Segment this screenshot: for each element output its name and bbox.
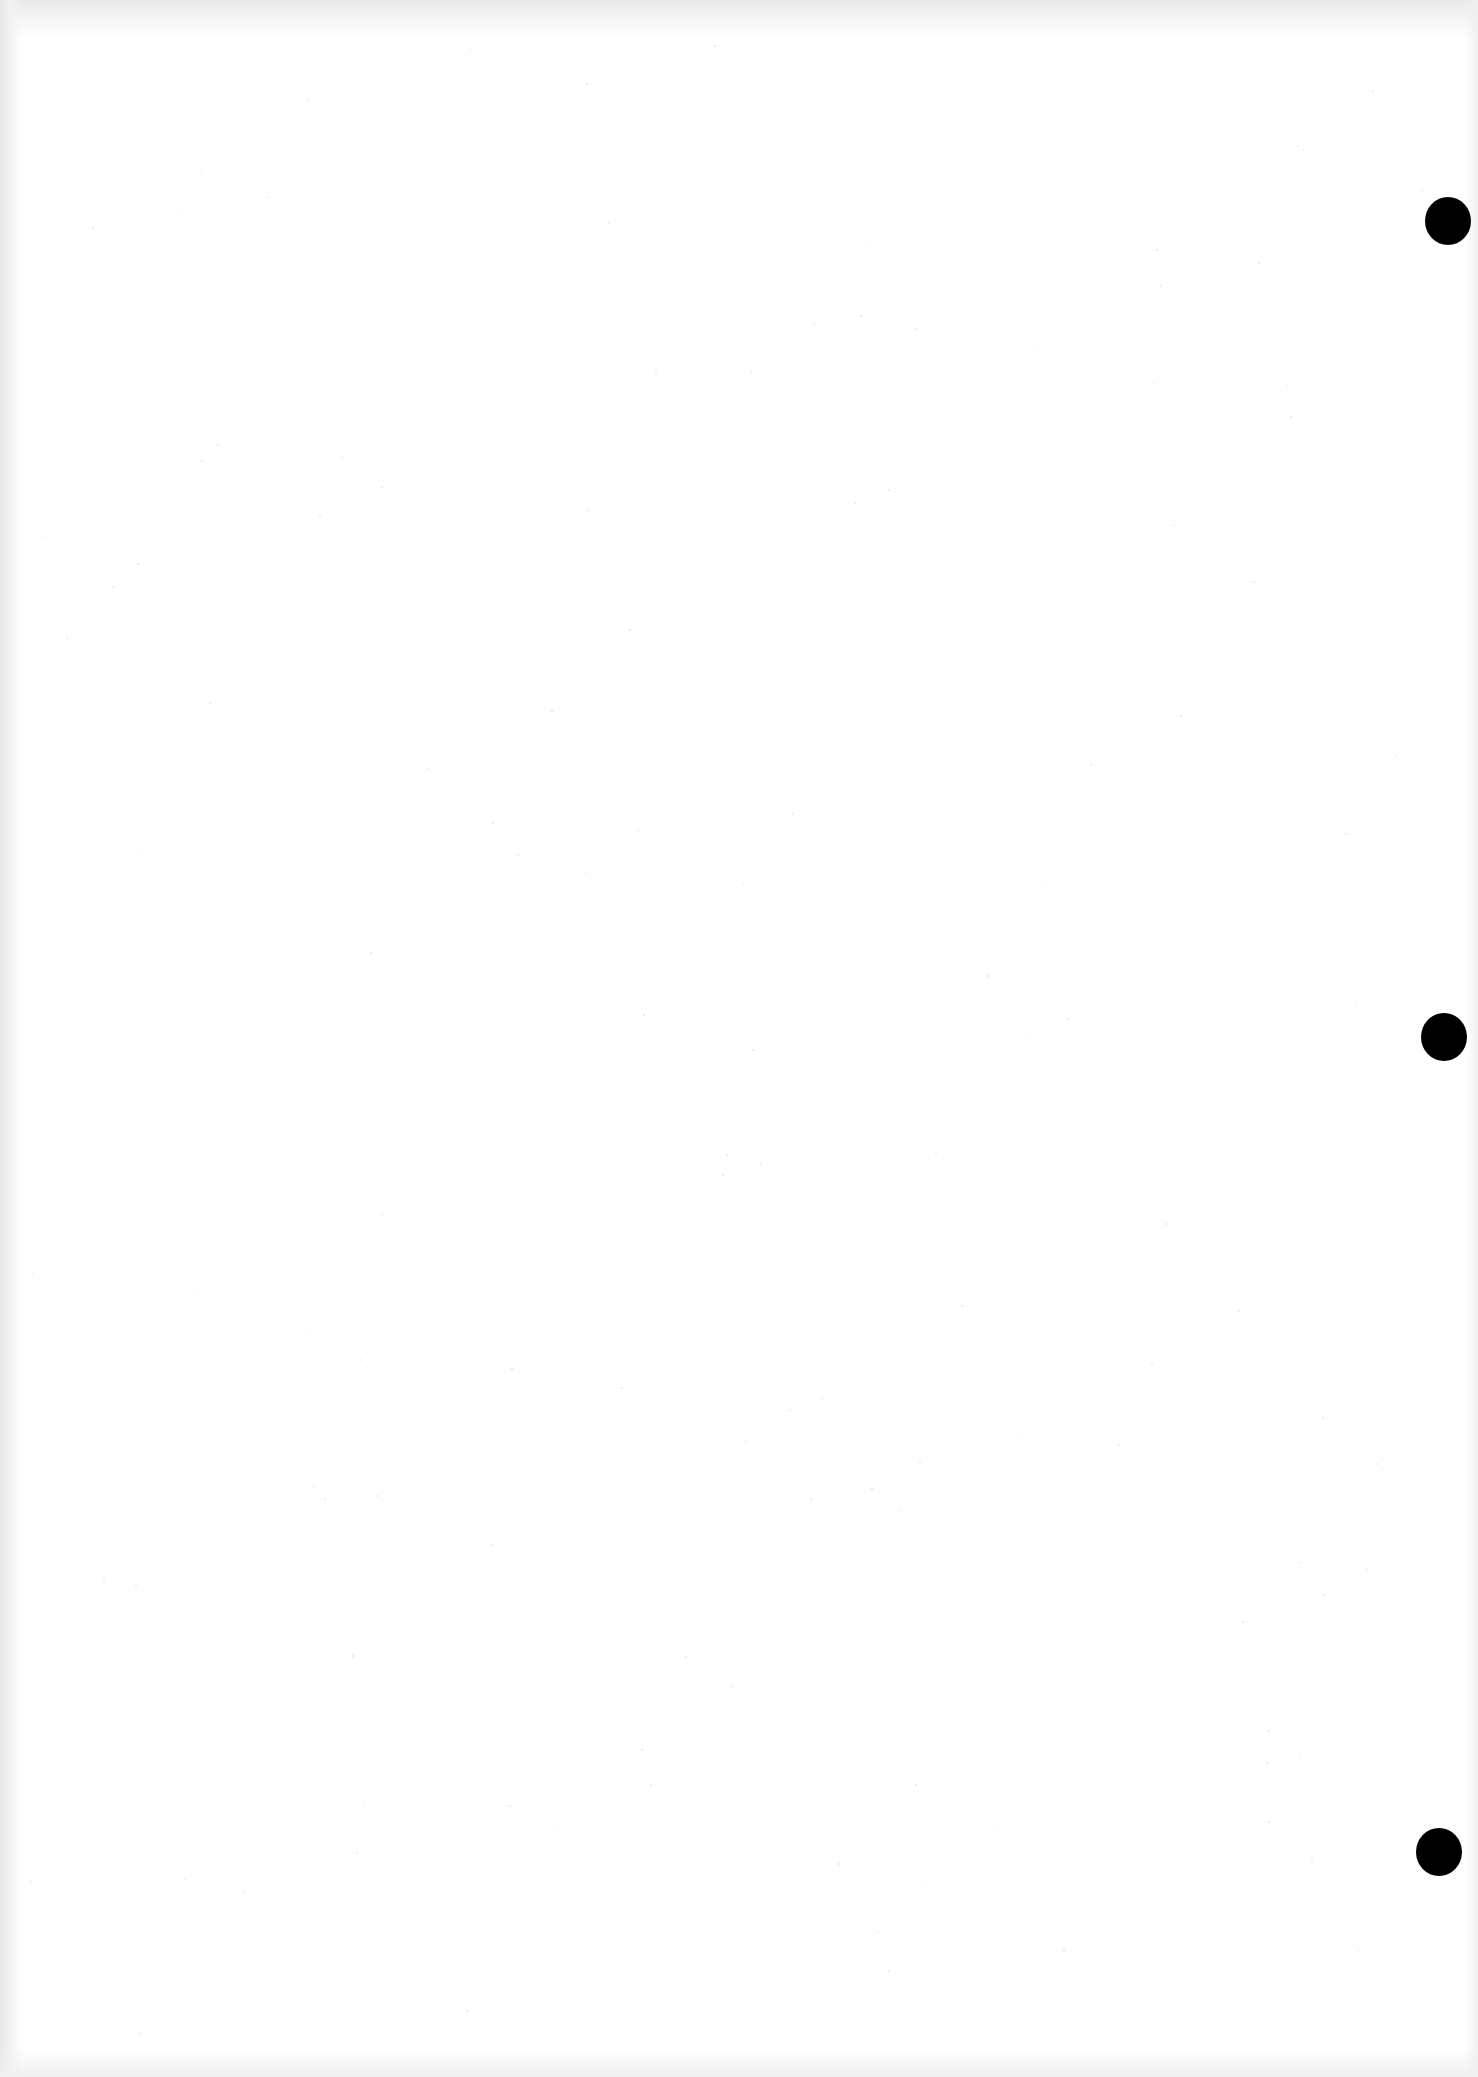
scan-speck	[517, 854, 519, 856]
scan-speck	[888, 1970, 890, 1972]
scan-speck	[921, 1884, 923, 1886]
scan-speck	[792, 813, 794, 815]
scan-speck	[866, 240, 868, 242]
scan-shadow-left	[0, 0, 22, 2077]
scan-shadow-top	[0, 0, 1478, 40]
scan-speck	[714, 45, 716, 47]
scan-speck	[1366, 1569, 1368, 1571]
scan-speck	[313, 1485, 315, 1487]
scan-speck	[137, 563, 139, 565]
scan-speck	[30, 1881, 32, 1883]
scan-speck	[961, 1305, 963, 1307]
scan-speck	[655, 372, 657, 374]
scan-speck	[854, 502, 856, 504]
scan-speck	[629, 629, 631, 631]
scan-speck	[1247, 1953, 1249, 1955]
scan-speck	[1180, 715, 1182, 717]
scanned-page	[0, 0, 1478, 2077]
scan-speck	[1268, 1730, 1270, 1732]
scan-speck	[789, 1409, 791, 1411]
scan-speck	[381, 1213, 383, 1215]
scan-speck	[993, 1826, 995, 1828]
scan-speck	[1063, 1950, 1065, 1952]
scan-speck	[1021, 1436, 1023, 1438]
scan-speck	[877, 1931, 879, 1933]
scan-speck	[911, 1665, 913, 1667]
scan-speck	[1322, 1417, 1324, 1419]
punch-hole-icon	[1416, 1828, 1462, 1876]
scan-speck	[495, 345, 497, 347]
scan-speck	[491, 1544, 493, 1546]
scan-speck	[370, 952, 372, 954]
scan-speck	[319, 516, 321, 518]
scan-speck	[356, 1852, 358, 1854]
scan-speck	[511, 1368, 513, 1370]
scan-speck	[1047, 1333, 1049, 1335]
scan-shadow-right	[1466, 0, 1478, 2077]
scan-speck	[1372, 90, 1374, 92]
scan-speck	[1345, 833, 1347, 835]
scan-speck	[363, 1804, 365, 1806]
scan-speck	[726, 1154, 728, 1156]
scan-speck	[1300, 1756, 1302, 1758]
scan-speck	[1037, 349, 1039, 351]
scan-speck	[32, 1273, 34, 1275]
scan-speck	[243, 1891, 245, 1893]
punch-hole-icon	[1425, 197, 1471, 245]
scan-speck	[1421, 190, 1423, 192]
scan-speck	[268, 196, 270, 198]
scan-speck	[112, 586, 114, 588]
scan-speck	[871, 1488, 873, 1490]
scan-speck	[1029, 1036, 1031, 1038]
scan-speck	[1266, 1762, 1268, 1764]
scan-speck	[1173, 524, 1175, 526]
scan-speck	[1286, 385, 1288, 387]
scan-speck	[138, 853, 140, 855]
scan-speck	[621, 1387, 623, 1389]
scan-speck	[209, 702, 211, 704]
scan-speck	[470, 48, 472, 50]
scan-speck	[1367, 1135, 1369, 1137]
scan-speck	[509, 1805, 511, 1807]
scan-speck	[813, 323, 815, 325]
scan-speck	[722, 1174, 724, 1176]
scan-speck	[1297, 145, 1299, 147]
scan-speck	[1242, 1621, 1244, 1623]
scan-speck	[309, 1330, 311, 1332]
scan-speck	[742, 882, 744, 884]
scan-speck	[821, 1398, 823, 1400]
scan-speck	[92, 227, 94, 229]
scan-speck	[685, 1656, 687, 1658]
scan-shadow-bottom	[0, 2047, 1478, 2077]
scan-speck	[888, 489, 890, 491]
scan-speck	[1300, 1562, 1302, 1564]
scan-speck	[1156, 249, 1158, 251]
scan-speck	[193, 1293, 195, 1295]
scan-speck	[381, 486, 383, 488]
scan-speck	[1238, 1310, 1240, 1312]
scan-speck	[1268, 1821, 1270, 1823]
scan-speck	[1166, 1223, 1168, 1225]
scan-speck	[1153, 382, 1155, 384]
scan-speck	[307, 99, 309, 101]
scan-speck	[492, 822, 494, 824]
scan-speck	[810, 1498, 812, 1500]
scan-speck	[1258, 271, 1260, 273]
scan-speck	[139, 2032, 141, 2034]
scan-speck	[427, 768, 429, 770]
scan-speck	[1151, 1363, 1153, 1365]
scan-speck	[341, 457, 343, 459]
scan-speck	[1258, 262, 1260, 264]
scan-speck	[915, 1784, 917, 1786]
punch-hole-icon	[1421, 1013, 1467, 1061]
scan-speck	[466, 2010, 468, 2012]
scan-speck	[1323, 1594, 1325, 1596]
scan-speck	[1376, 1463, 1378, 1465]
scan-speck	[935, 1152, 937, 1154]
scan-speck	[1358, 1949, 1360, 1951]
scan-speck	[44, 536, 46, 538]
scan-speck	[175, 1871, 177, 1873]
scan-speck	[750, 371, 752, 373]
scan-speck	[1319, 42, 1321, 44]
scan-speck	[217, 444, 219, 446]
